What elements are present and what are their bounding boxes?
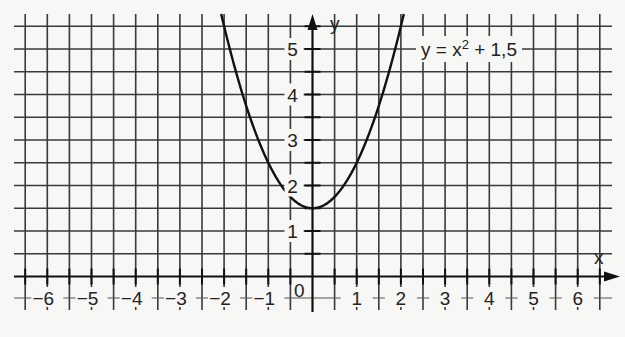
parabola-chart: −6−5−4−3−2−112345612345 x y 0 y = x2 + 1… — [0, 0, 625, 337]
y-tick-label: 2 — [287, 176, 298, 197]
x-tick-label: −5 — [77, 288, 99, 309]
y-tick-label: 5 — [287, 39, 298, 60]
x-tick-label: −2 — [209, 288, 231, 309]
function-label-exponent: 2 — [462, 37, 469, 52]
x-tick-label: −1 — [253, 288, 275, 309]
x-axis-label: x — [594, 247, 604, 268]
x-tick-label: −4 — [121, 288, 143, 309]
function-label-base: y = x — [421, 39, 462, 60]
y-axis-label: y — [330, 13, 340, 34]
x-tick-label: 5 — [528, 288, 539, 309]
x-tick-label: 2 — [396, 288, 407, 309]
function-label-text: y = x2 + 1,5 — [421, 37, 517, 60]
x-tick-label: 6 — [572, 288, 583, 309]
y-tick-label: 4 — [287, 85, 298, 106]
y-axis-arrow-icon — [308, 14, 318, 30]
x-tick-label: 4 — [484, 288, 495, 309]
x-axis-arrow-icon — [604, 272, 620, 282]
x-tick-label: −3 — [165, 288, 187, 309]
y-tick-label: 3 — [287, 130, 298, 151]
function-label-rest: + 1,5 — [469, 39, 517, 60]
function-label: y = x2 + 1,5 — [416, 36, 522, 62]
x-tick-label: −6 — [32, 288, 54, 309]
y-tick-label: 1 — [287, 221, 298, 242]
x-tick-label: 1 — [351, 288, 362, 309]
origin-label: 0 — [294, 280, 305, 301]
x-tick-label: 3 — [440, 288, 451, 309]
